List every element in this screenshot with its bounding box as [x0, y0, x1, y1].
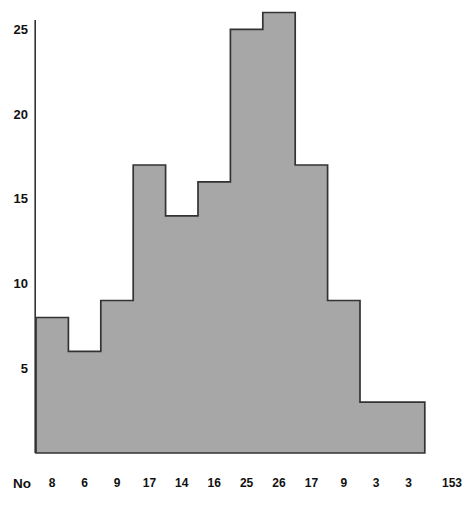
bar-count-label: 9	[114, 476, 121, 491]
y-tick-label: 15	[14, 191, 28, 206]
y-tick-label: 25	[14, 22, 28, 37]
bar-count-label: 3	[405, 476, 412, 491]
histogram-polygon	[36, 13, 425, 454]
bar-count-label: 8	[49, 476, 56, 491]
bar-count-label: 14	[175, 476, 188, 491]
bar-count-label: 16	[208, 476, 221, 491]
bar-count-label: 9	[340, 476, 347, 491]
count-row-label: No	[13, 476, 31, 491]
histogram-plot: 510152025	[0, 0, 475, 470]
bar-count-label: 17	[143, 476, 156, 491]
bar-count-label: 3	[373, 476, 380, 491]
bar-count-label: 17	[305, 476, 318, 491]
y-tick-label: 20	[14, 107, 28, 122]
y-tick-label: 5	[21, 361, 28, 376]
chart-canvas: 510152025 No 869171416252617933153	[0, 0, 475, 509]
total-count-label: 153	[442, 476, 462, 491]
bar-count-label: 6	[81, 476, 88, 491]
y-tick-label: 10	[14, 276, 28, 291]
bar-count-label: 26	[272, 476, 285, 491]
bar-count-label: 25	[240, 476, 253, 491]
